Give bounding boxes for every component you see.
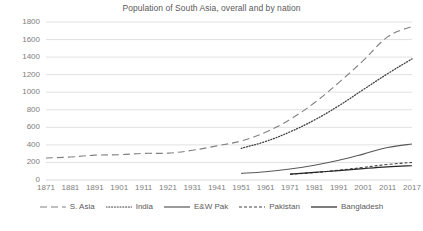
y-axis-tick-label: 200 <box>2 157 40 166</box>
chart-legend: S. AsiaIndiaE&W PakPakistanBangladesh <box>0 202 423 211</box>
y-axis-tick-label: 1600 <box>2 35 40 44</box>
x-axis-tick-label: 2017 <box>397 183 423 192</box>
legend-item-e-w-pak[interactable]: E&W Pak <box>164 202 228 211</box>
series-line-bangladesh <box>290 166 412 174</box>
legend-item-s-asia[interactable]: S. Asia <box>40 202 95 211</box>
y-axis-tick-label: 1800 <box>2 17 40 26</box>
chart-container: Population of South Asia, overall and by… <box>0 0 423 231</box>
chart-plot-svg <box>0 0 423 231</box>
series-line-e-w-pak <box>241 144 412 173</box>
y-axis-tick-label: 800 <box>2 105 40 114</box>
y-axis-tick-label: 1400 <box>2 52 40 61</box>
y-axis-tick-label: 1200 <box>2 70 40 79</box>
legend-swatch-pakistan <box>239 203 265 211</box>
legend-label: E&W Pak <box>194 202 228 211</box>
plot-area <box>0 0 423 231</box>
legend-swatch-e-w-pak <box>164 203 190 211</box>
legend-label: India <box>136 202 153 211</box>
legend-swatch-bangladesh <box>311 203 337 211</box>
y-axis-tick-label: 600 <box>2 122 40 131</box>
legend-label: Pakistan <box>269 202 300 211</box>
legend-label: Bangladesh <box>341 202 383 211</box>
series-line-india <box>241 59 412 148</box>
legend-swatch-s-asia <box>40 203 66 211</box>
legend-label: S. Asia <box>70 202 95 211</box>
y-axis-tick-label: 1000 <box>2 87 40 96</box>
legend-item-india[interactable]: India <box>106 202 153 211</box>
y-axis-tick-label: 400 <box>2 140 40 149</box>
legend-item-pakistan[interactable]: Pakistan <box>239 202 300 211</box>
legend-item-bangladesh[interactable]: Bangladesh <box>311 202 383 211</box>
legend-swatch-india <box>106 203 132 211</box>
